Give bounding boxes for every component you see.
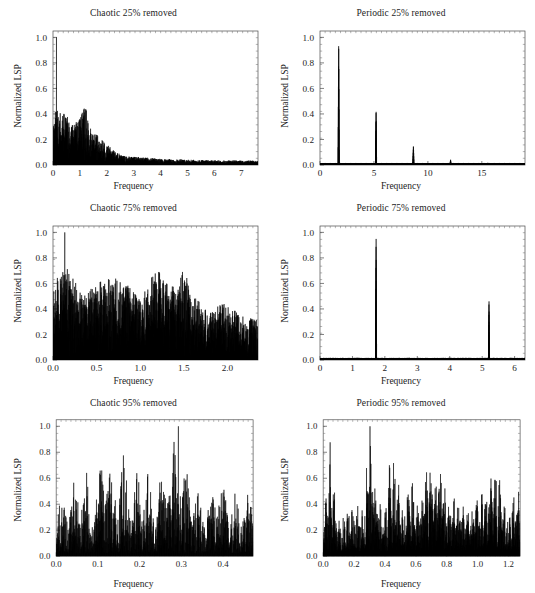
y-tick-label: 0.2: [303, 330, 315, 340]
y-axis-label-periodic-25: Normalized LSP: [280, 29, 290, 163]
x-tick-label: 1: [78, 168, 83, 178]
y-tick-label: 0.8: [306, 447, 318, 457]
y-tick-label: 1.0: [39, 421, 51, 431]
y-tick-label: 1.0: [306, 421, 318, 431]
y-tick-label: 0.6: [39, 473, 51, 483]
x-tick-label: 0.0: [47, 363, 59, 373]
chart-panel-chaotic-95: Chaotic 95% removed0.00.10.20.30.40.00.2…: [0, 390, 267, 593]
x-axis-label-periodic-25: Frequency: [267, 181, 535, 191]
y-tick-label: 0.6: [36, 84, 48, 94]
x-tick-label: 4: [447, 363, 452, 373]
y-axis-label-chaotic-95: Normalized LSP: [13, 419, 23, 561]
spectrum-line-chaotic-95: [56, 426, 253, 556]
x-tick-label: 0.4: [218, 559, 230, 569]
chart-panel-chaotic-75: Chaotic 75% removed0.00.51.01.52.00.00.2…: [0, 195, 267, 390]
x-tick-label: 10: [423, 168, 433, 178]
plot-area-periodic-25: 0510150.00.20.40.60.81.0: [267, 0, 534, 195]
x-axis-label-periodic-75: Frequency: [267, 376, 535, 386]
y-tick-label: 0.4: [36, 304, 48, 314]
x-tick-label: 0.3: [176, 559, 188, 569]
x-tick-label: 2.0: [222, 363, 234, 373]
y-tick-label: 0.6: [303, 84, 315, 94]
plot-area-chaotic-95: 0.00.10.20.30.40.00.20.40.60.81.0: [0, 390, 267, 585]
axes-frame: [320, 226, 525, 360]
x-tick-label: 3: [415, 363, 420, 373]
x-tick-label: 0.0: [318, 559, 330, 569]
y-tick-label: 0.6: [303, 279, 315, 289]
x-tick-label: 1: [350, 363, 355, 373]
x-tick-label: 0.1: [92, 559, 103, 569]
x-tick-label: 1.2: [503, 559, 514, 569]
x-tick-label: 0: [51, 168, 56, 178]
x-tick-label: 2: [105, 168, 110, 178]
y-tick-label: 0.2: [36, 330, 48, 340]
x-tick-label: 5: [480, 363, 485, 373]
figure-panel-grid: Chaotic 25% removed012345670.00.20.40.60…: [0, 0, 535, 593]
chart-panel-periodic-95: Periodic 95% removed0.00.20.40.60.81.01.…: [267, 390, 535, 593]
x-tick-label: 6: [212, 168, 217, 178]
x-tick-label: 1.0: [472, 559, 484, 569]
y-tick-label: 0.4: [306, 499, 318, 509]
y-tick-label: 0.4: [36, 109, 48, 119]
y-axis-label-periodic-75: Normalized LSP: [280, 224, 290, 358]
y-tick-label: 0.8: [36, 253, 48, 263]
y-tick-label: 0.4: [39, 499, 51, 509]
y-tick-label: 0.4: [303, 304, 315, 314]
chart-panel-periodic-25: Periodic 25% removed0510150.00.20.40.60.…: [267, 0, 535, 195]
x-tick-label: 0.6: [410, 559, 422, 569]
x-axis-label-chaotic-25: Frequency: [0, 181, 267, 191]
spectrum-line-periodic-95: [323, 426, 520, 556]
y-tick-label: 0.0: [39, 551, 51, 561]
x-tick-label: 1.0: [134, 363, 146, 373]
y-tick-label: 1.0: [303, 228, 315, 238]
x-tick-label: 0.0: [51, 559, 63, 569]
x-tick-label: 6: [512, 363, 517, 373]
y-tick-label: 0.8: [36, 58, 48, 68]
x-axis-label-periodic-95: Frequency: [267, 579, 535, 589]
y-tick-label: 0.6: [306, 473, 318, 483]
x-tick-label: 0.2: [134, 559, 145, 569]
y-tick-label: 0.2: [36, 135, 48, 145]
y-tick-label: 0.0: [306, 551, 318, 561]
y-tick-label: 0.2: [306, 525, 317, 535]
x-tick-label: 0: [318, 363, 323, 373]
plot-area-chaotic-25: 012345670.00.20.40.60.81.0: [0, 0, 267, 195]
spectrum-line-periodic-75: [320, 239, 525, 360]
x-tick-label: 7: [239, 168, 244, 178]
x-tick-label: 15: [477, 168, 487, 178]
y-tick-label: 0.2: [303, 135, 315, 145]
y-tick-label: 0.0: [36, 160, 48, 170]
x-tick-label: 4: [158, 168, 163, 178]
axes-frame: [320, 31, 525, 165]
x-tick-label: 0.5: [91, 363, 103, 373]
y-axis-label-periodic-95: Normalized LSP: [280, 419, 290, 561]
y-tick-label: 0.8: [39, 447, 51, 457]
y-tick-label: 0.8: [303, 58, 315, 68]
y-tick-label: 1.0: [36, 228, 48, 238]
x-tick-label: 5: [372, 168, 377, 178]
chart-panel-chaotic-25: Chaotic 25% removed012345670.00.20.40.60…: [0, 0, 267, 195]
x-tick-label: 2: [383, 363, 388, 373]
x-tick-label: 3: [131, 168, 136, 178]
plot-area-periodic-95: 0.00.20.40.60.81.01.20.00.20.40.60.81.0: [267, 390, 534, 585]
plot-area-periodic-75: 01234560.00.20.40.60.81.0: [267, 195, 534, 390]
spectrum-line-chaotic-75: [53, 232, 258, 360]
x-tick-label: 0: [318, 168, 323, 178]
y-tick-label: 0.8: [303, 253, 315, 263]
y-tick-label: 0.2: [39, 525, 50, 535]
y-tick-label: 0.0: [303, 160, 315, 170]
y-axis-label-chaotic-25: Normalized LSP: [13, 29, 23, 163]
y-tick-label: 0.0: [303, 355, 315, 365]
x-tick-label: 0.4: [379, 559, 391, 569]
spectrum-line-periodic-25: [320, 46, 525, 165]
chart-panel-periodic-75: Periodic 75% removed01234560.00.20.40.60…: [267, 195, 535, 390]
x-tick-label: 0.8: [441, 559, 453, 569]
x-tick-label: 0.2: [349, 559, 360, 569]
x-tick-label: 1.5: [178, 363, 190, 373]
spectrum-line-chaotic-25: [53, 37, 258, 165]
y-tick-label: 0.0: [36, 355, 48, 365]
x-axis-label-chaotic-75: Frequency: [0, 376, 267, 386]
y-tick-label: 1.0: [36, 33, 48, 43]
plot-area-chaotic-75: 0.00.51.01.52.00.00.20.40.60.81.0: [0, 195, 267, 390]
y-tick-label: 0.6: [36, 279, 48, 289]
